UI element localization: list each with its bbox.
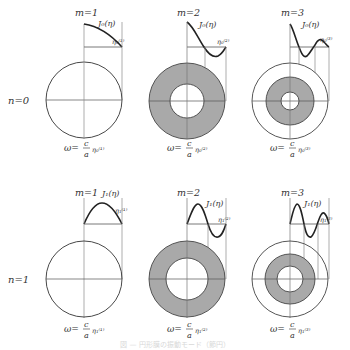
panel-n0-m3: m=3 J₀(η) η₀⁽³⁾ ω= c a η₀⁽³⁾ [252,7,333,159]
frequency-formula: ω= c a η₀⁽³⁾ [270,139,311,159]
svg-text:a: a [84,150,89,159]
frequency-formula: ω= c a η₀⁽¹⁾ [64,139,105,159]
membrane-annulus [149,241,225,317]
figure-caption: 図 — 円形膜の振動モード（節円） [120,340,229,349]
svg-text:ω=: ω= [64,143,79,153]
m-label: m=1 [75,187,98,198]
svg-text:a: a [290,331,295,340]
svg-text:c: c [187,139,192,148]
function-label: J₁(η) [100,189,119,198]
m-label: m=1 [75,7,98,18]
membrane-annulus [149,22,225,139]
row-label-n1: n=1 [8,274,29,285]
panel-n1-m1: m=1 J₁(η) η₁⁽¹⁾ ω= c a η₁⁽¹⁾ [46,187,128,340]
frequency-formula: ω= c a η₁⁽²⁾ [167,320,208,340]
svg-text:c: c [84,320,89,329]
svg-text:ω=: ω= [270,143,285,153]
svg-text:ω=: ω= [270,324,285,334]
svg-text:c: c [84,139,89,148]
function-label: J₀(η) [300,20,319,29]
function-label: J₁(η) [204,199,223,208]
panel-n0-m2: m=2 J₀(η) η₀⁽²⁾ ω= c a η₀⁽²⁾ [149,7,230,159]
function-label: J₀(η) [197,20,216,29]
diagram-canvas: n=0 m=1 J₀(η) η₀⁽¹⁾ ω= c a η₀⁽¹⁾ m=2 J₀( [0,0,350,350]
svg-text:a: a [84,331,89,340]
svg-text:η₀⁽²⁾: η₀⁽²⁾ [195,146,208,154]
svg-text:ω=: ω= [167,143,182,153]
svg-text:η₁⁽¹⁾: η₁⁽¹⁾ [92,327,105,335]
frequency-formula: ω= c a η₁⁽¹⁾ [64,320,105,340]
m-label: m=3 [281,7,304,18]
svg-text:η₁⁽³⁾: η₁⁽³⁾ [298,327,311,335]
svg-text:a: a [290,150,295,159]
svg-text:c: c [290,139,295,148]
root-label: η₀⁽²⁾ [217,38,230,46]
svg-text:η₀⁽³⁾: η₀⁽³⁾ [298,146,311,154]
frequency-formula: ω= c a η₁⁽³⁾ [270,320,311,340]
root-label: η₁⁽²⁾ [218,216,231,224]
frequency-formula: ω= c a η₀⁽²⁾ [167,139,208,159]
m-label: m=2 [177,7,200,18]
svg-text:ω=: ω= [167,324,182,334]
panel-n0-m1: m=1 J₀(η) η₀⁽¹⁾ ω= c a η₀⁽¹⁾ [46,7,125,159]
membrane-circle [46,47,122,139]
svg-text:a: a [187,331,192,340]
row-label-n0: n=0 [8,95,30,106]
svg-text:c: c [187,320,192,329]
svg-text:ω=: ω= [64,324,79,334]
svg-text:η₀⁽¹⁾: η₀⁽¹⁾ [92,146,105,154]
svg-text:c: c [290,320,295,329]
panel-n1-m2: m=2 J₁(η) η₁⁽²⁾ ω= c a η₁⁽²⁾ [149,187,231,340]
bessel-membrane-mode-diagram: n=0 m=1 J₀(η) η₀⁽¹⁾ ω= c a η₀⁽¹⁾ m=2 J₀( [0,0,350,350]
function-label: J₁(η) [302,199,321,208]
m-label: m=2 [177,187,200,198]
m-label: m=3 [281,187,304,198]
panel-n1-m3: m=3 J₁(η) η₁⁽³⁾ ω= c a η₁⁽³⁾ [252,187,333,340]
svg-text:η₁⁽²⁾: η₁⁽²⁾ [195,327,208,335]
function-label: J₀(η) [96,19,115,28]
svg-text:a: a [187,150,192,159]
